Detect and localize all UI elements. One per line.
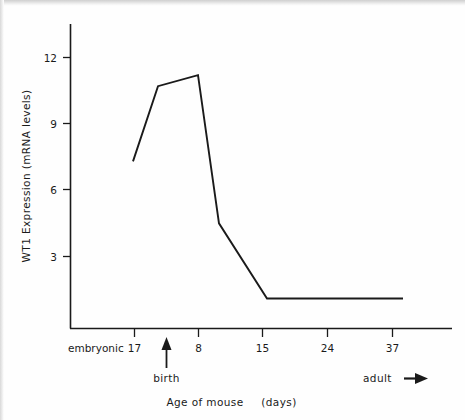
x-tick-label-embryonic: embryonic <box>68 342 124 354</box>
x-tick-label-15: 15 <box>256 342 269 354</box>
adult-label: adult <box>363 372 392 384</box>
chart-figure: 12 9 6 3 WT1 Expression (mRNA levels) em… <box>0 0 465 420</box>
birth-arrow-icon <box>162 337 172 368</box>
x-tick-label-37: 37 <box>386 342 399 354</box>
y-tick-label-3: 3 <box>50 251 57 263</box>
axis-lines <box>70 24 452 329</box>
y-axis-tick-labels: 12 9 6 3 <box>44 52 58 263</box>
x-tick-label-17: 17 <box>128 342 141 354</box>
y-tick-label-12: 12 <box>44 52 57 64</box>
line-chart-plot: 12 9 6 3 WT1 Expression (mRNA levels) em… <box>0 0 465 420</box>
y-axis-title: WT1 Expression (mRNA levels) <box>20 90 32 263</box>
x-tick-label-24: 24 <box>321 342 335 354</box>
x-axis-title-unit: (days) <box>261 396 296 408</box>
x-axis-ticks <box>135 328 393 337</box>
y-tick-label-9: 9 <box>50 118 57 130</box>
x-axis-title-main: Age of mouse <box>166 396 243 408</box>
birth-label: birth <box>153 372 180 384</box>
adult-annotation: adult <box>363 372 428 384</box>
birth-annotation: birth <box>153 337 180 384</box>
adult-arrow-icon <box>404 373 428 384</box>
x-axis-tick-labels: embryonic 17 8 15 24 37 <box>68 342 399 354</box>
x-axis-title: Age of mouse (days) <box>166 396 296 408</box>
wt1-expression-line <box>133 75 403 298</box>
x-tick-label-8: 8 <box>195 342 202 354</box>
y-tick-label-6: 6 <box>50 184 57 196</box>
